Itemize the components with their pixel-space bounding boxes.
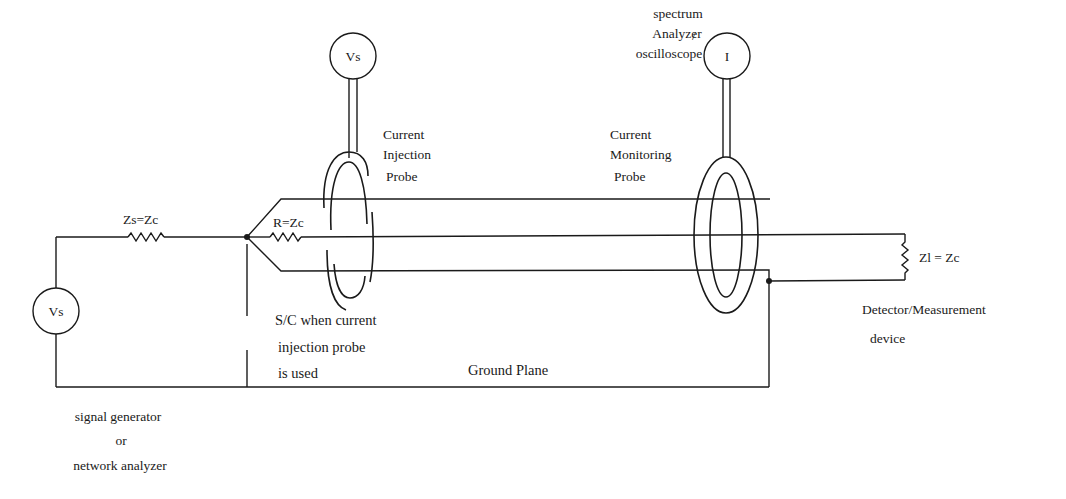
source-caption-line-2: or [115, 433, 127, 448]
ground-plane: Ground Plane [56, 362, 769, 387]
injection-probe-inner-ring-bottom [334, 264, 365, 298]
sc-note-line-2: injection probe [278, 339, 365, 355]
meter-caption-separator: / [692, 28, 696, 43]
source-caption-line-1: signal generator [75, 409, 162, 424]
bci-test-setup-diagram: Vs Zs=Zc Ground Plane S/C when current i… [0, 0, 1066, 499]
source-caption: signal generator or network analyzer [73, 409, 167, 473]
sc-note-line-3: is used [278, 365, 319, 381]
lower-conductor [247, 237, 769, 281]
upper-conductor [247, 199, 770, 237]
source-caption-line-3: network analyzer [73, 458, 167, 473]
monitoring-probe-caption-3: Probe [614, 169, 646, 184]
source-impedance-resistor-icon [128, 233, 164, 241]
transmission-lines: R=Zc [244, 199, 905, 387]
source-symbol: Vs [48, 304, 63, 319]
injection-probe-inner-ring-top [331, 162, 367, 230]
injection-probe-caption-3: Probe [386, 169, 418, 184]
termination-resistor-icon [270, 233, 301, 241]
load: Zl = Zc Detector/Measurement device [862, 234, 986, 346]
signal-source-branch: Vs Zs=Zc [33, 212, 247, 387]
current-monitoring-probe: I spectrum Analyzer oscilloscope / Curre… [610, 6, 758, 313]
meter-symbol: I [725, 49, 730, 64]
load-resistor-icon [902, 234, 908, 280]
source-impedance-label: Zs=Zc [123, 212, 158, 227]
meter-caption-1: spectrum [653, 6, 703, 21]
current-injection-probe: Vs Current Injection Probe [324, 33, 431, 310]
ground-plane-label: Ground Plane [468, 362, 548, 378]
load-caption-line-2: device [870, 331, 905, 346]
wire-segment [769, 280, 905, 281]
termination-resistor-label: R=Zc [273, 215, 304, 230]
injection-driver-symbol: Vs [345, 49, 360, 64]
short-circuit-branch: S/C when current injection probe is used [247, 244, 376, 387]
injection-probe-caption-1: Current [383, 127, 424, 142]
middle-conductor [301, 234, 905, 237]
load-label: Zl = Zc [919, 250, 960, 265]
monitoring-probe-caption-2: Monitoring [610, 147, 672, 162]
meter-caption-3: oscilloscope [636, 46, 703, 61]
sc-note-line-1: S/C when current [275, 312, 376, 328]
monitoring-probe-caption-1: Current [610, 127, 651, 142]
injection-probe-caption-2: Injection [383, 147, 431, 162]
load-caption-line-1: Detector/Measurement [862, 302, 986, 317]
